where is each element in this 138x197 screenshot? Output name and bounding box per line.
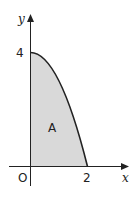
shaded-region-a — [31, 53, 88, 167]
x-axis-label: x — [122, 171, 129, 185]
y-axis-label: y — [17, 12, 25, 26]
y-axis-arrow-icon — [27, 14, 34, 22]
y-tick-4: 4 — [16, 46, 24, 60]
x-tick-2: 2 — [83, 171, 91, 185]
x-axis-arrow-icon — [121, 163, 129, 170]
region-label: A — [48, 121, 57, 135]
origin-label: O — [18, 171, 27, 185]
diagram: y 4 A O 2 x — [0, 0, 138, 197]
